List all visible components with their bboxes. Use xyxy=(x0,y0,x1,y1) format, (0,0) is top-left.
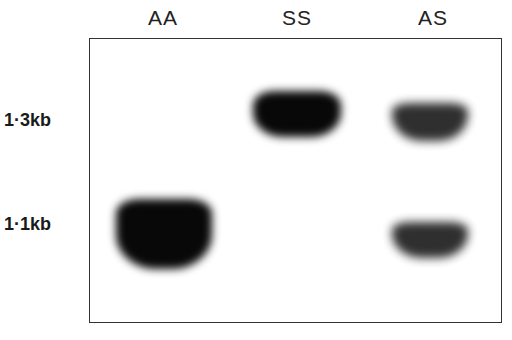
gel-frame xyxy=(89,38,502,323)
lane-label-ss: SS xyxy=(257,6,337,30)
band-ss-1-3kb xyxy=(253,91,341,137)
lane-label-as: AS xyxy=(393,6,473,30)
band-aa-1-1kb xyxy=(116,199,212,269)
band-as-1-3kb xyxy=(392,103,468,141)
size-marker-1-1kb: 1·1kb xyxy=(4,214,51,235)
band-as-1-1kb xyxy=(392,222,468,258)
lane-label-aa: AA xyxy=(123,6,203,30)
size-marker-1-3kb: 1·3kb xyxy=(4,110,51,131)
